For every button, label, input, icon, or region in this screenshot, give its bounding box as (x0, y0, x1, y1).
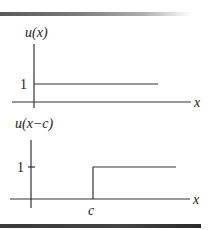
bottom-decorative-bar (0, 224, 201, 228)
bottom-x-tick-label: c (88, 203, 95, 218)
bottom-plot-title: u(x−c) (15, 116, 54, 132)
bottom-y-tick-label: 1 (17, 160, 24, 175)
top-y-tick-label: 1 (20, 77, 27, 92)
top-x-axis-label: x (193, 95, 201, 110)
top-plot-title: u(x) (25, 25, 48, 41)
top-plot: u(x) 1 x (12, 25, 201, 110)
step-function-diagram: u(x) 1 x u(x−c) 1 c x (0, 0, 213, 230)
bottom-plot: u(x−c) 1 c x (10, 116, 200, 218)
bottom-step-line (93, 167, 176, 199)
bottom-x-axis-label: x (192, 192, 200, 207)
